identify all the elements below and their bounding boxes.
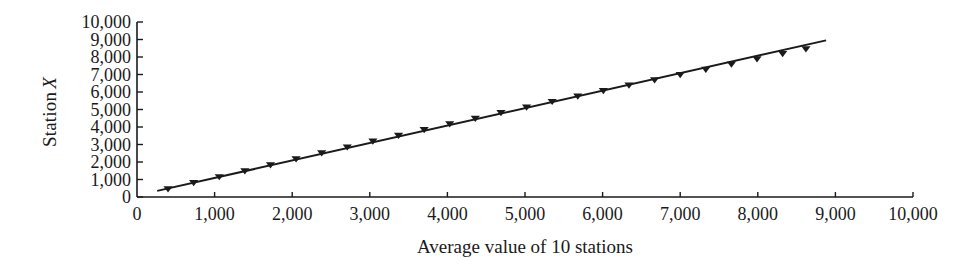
data-point-marker: [778, 51, 787, 57]
x-tick-label: 1,000: [194, 205, 235, 223]
x-axis-tick-labels: 01,0002,0003,0004,0005,0006,0007,0008,00…: [0, 205, 977, 229]
y-axis-ticks: [137, 22, 143, 197]
trend-line: [157, 40, 826, 191]
x-tick-label: 2,000: [272, 205, 313, 223]
x-tick-label: 6,000: [582, 205, 623, 223]
x-tick-label: 3,000: [350, 205, 391, 223]
data-point-marker: [752, 56, 761, 62]
x-tick-label: 0: [133, 205, 142, 223]
data-point-markers: [163, 46, 810, 192]
axes-spines: [137, 22, 913, 197]
x-tick-label: 10,000: [888, 205, 938, 223]
chart-figure: StationX 01,0002,0003,0004,0005,0006,000…: [0, 0, 977, 270]
plot-area: [0, 0, 977, 270]
x-tick-label: 7,000: [660, 205, 701, 223]
data-point-marker: [676, 72, 685, 78]
x-axis-title: Average value of 10 stations: [137, 236, 913, 258]
data-point-marker: [801, 46, 810, 52]
x-tick-label: 5,000: [505, 205, 546, 223]
data-point-marker: [701, 67, 710, 73]
x-tick-label: 8,000: [738, 205, 779, 223]
data-point-marker: [727, 61, 736, 67]
x-tick-label: 4,000: [427, 205, 468, 223]
x-tick-label: 9,000: [815, 205, 856, 223]
